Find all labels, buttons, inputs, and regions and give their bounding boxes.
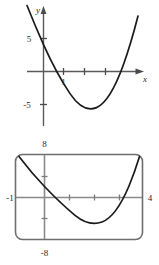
window-ymax-label: 8 <box>42 139 47 149</box>
window-ymin-label: -8 <box>41 248 49 258</box>
coordinate-axes-panel: y x 5 -5 1 <box>0 0 159 133</box>
figure-container: y x 5 -5 1 8 -8 -1 <box>0 0 159 265</box>
viewport-parabola-curve <box>19 157 140 224</box>
x-axis-label: x <box>142 74 147 84</box>
y-tick-label-minus5: -5 <box>23 100 31 110</box>
coordinate-axes-svg: y x 5 -5 1 <box>0 0 159 133</box>
calculator-window-panel: 8 -8 -1 4 <box>0 130 159 265</box>
window-xmax-label: 4 <box>148 193 153 203</box>
y-tick-label-5: 5 <box>27 34 32 44</box>
calculator-window-svg: 8 -8 -1 4 <box>0 130 159 265</box>
window-xmin-label: -1 <box>6 193 14 203</box>
y-axis-label: y <box>35 5 40 15</box>
y-axis-arrowhead <box>41 6 47 14</box>
x-tick-label-1: 1 <box>61 77 66 87</box>
